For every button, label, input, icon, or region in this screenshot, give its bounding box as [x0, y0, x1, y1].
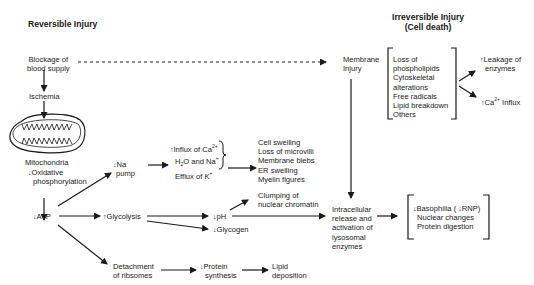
node-detachment-line2: of ribsomes	[113, 271, 154, 280]
node-detachment-ribosomes: Detachment of ribsomes	[113, 262, 154, 280]
node-intracellular-line3: activation of	[332, 223, 373, 232]
bracket-right-membrane-list	[451, 48, 456, 119]
list-item: Loss of	[393, 55, 448, 64]
brace-influx	[219, 141, 226, 169]
node-intracellular-line5: enzymes	[332, 242, 373, 251]
node-membrane-line1: Membrane	[343, 55, 379, 64]
list-membrane-damage-mechanisms: Loss of phospholipids Cytoskeletal alter…	[393, 55, 448, 119]
list-item: Membrane blebs	[258, 156, 315, 165]
node-atp: ↓ATP	[33, 212, 51, 221]
node-oxidative-line1: ↓Oxidative	[28, 168, 87, 177]
arrow-atp-to-detachment	[58, 225, 107, 264]
node-leakage-line2: enzymes	[480, 64, 521, 73]
arrow-list-to-leakage	[459, 71, 475, 81]
arrow-list-to-ca-influx	[459, 86, 476, 97]
node-protein-line1: ↓Protein	[200, 262, 237, 271]
node-blockage-line2: blood supply	[27, 64, 70, 73]
node-intracellular-lysosomal-release: Intracellular release and activation of …	[332, 205, 373, 251]
list-item: Free radicals	[393, 92, 448, 101]
node-na-pump: ↓Na pump	[113, 160, 135, 178]
node-clumping-chromatin: Clumping of nuclear chromatin	[258, 191, 318, 209]
list-item: Cell swelling	[258, 138, 315, 147]
node-clumping-line2: nuclear chromatin	[258, 200, 318, 209]
arrow-glycolysis-to-glycogen	[147, 221, 208, 229]
node-lipid-deposition: Lipid deposition	[272, 262, 307, 280]
list-item: alterations	[393, 83, 448, 92]
node-influx-line1: ↑Influx of Ca2+	[170, 142, 219, 154]
heading-irreversible-injury: Irreversible Injury (Cell death)	[392, 12, 464, 32]
list-item: ER swelling	[258, 166, 315, 175]
node-protein-synthesis: ↓Protein synthesis	[200, 262, 237, 280]
list-item: Lipid breakdown	[393, 101, 448, 110]
node-na-pump-line2: pump	[113, 169, 135, 178]
list-item: Protein digestion	[413, 222, 480, 231]
list-cell-swelling-effects: Cell swelling Loss of microvilli Membran…	[258, 138, 315, 184]
node-protein-line2: synthesis	[200, 271, 237, 280]
node-intracellular-line4: lysosomal	[332, 233, 373, 242]
node-leakage-line1: ↑Leakage of	[480, 55, 521, 64]
node-intracellular-line1: Intracellular	[332, 205, 373, 214]
list-item: Myelin figures	[258, 175, 315, 184]
node-lipid-line1: Lipid	[272, 262, 307, 271]
list-item: Cytoskeletal	[393, 73, 448, 82]
list-item: Others	[393, 110, 448, 119]
list-item: phospholipids	[393, 64, 448, 73]
node-na-pump-line1: ↓Na	[113, 160, 135, 169]
heading-irreversible-line1: Irreversible Injury	[392, 12, 464, 22]
node-ion-influx: ↑Influx of Ca2+ H2O and Na+ Efflux of K+	[170, 142, 219, 181]
bracket-right-lysosomal-list	[483, 195, 489, 239]
heading-irreversible-line2: (Cell death)	[392, 22, 464, 32]
mitochondrion-icon	[10, 114, 85, 153]
node-membrane-injury: Membrane Injury	[343, 55, 379, 73]
node-blockage-line1: Blockage of	[27, 55, 70, 64]
node-clumping-line1: Clumping of	[258, 191, 318, 200]
node-glycolysis: ↑Glycolysis	[103, 212, 141, 221]
node-membrane-line2: Injury	[343, 64, 379, 73]
node-oxidative-phosphorylation: ↓Oxidative phosphorylation	[28, 168, 87, 186]
node-influx-line3: Efflux of K+	[170, 169, 219, 181]
list-item: Nuclear changes	[413, 213, 480, 222]
node-influx-line2: H2O and Na+	[170, 154, 219, 169]
list-item: Loss of microvilli	[258, 147, 315, 156]
node-lipid-line2: deposition	[272, 271, 307, 280]
node-oxidative-line2: phosphorylation	[28, 177, 87, 186]
list-lysosomal-effects: ↓Basophilia ( ↓RNP) Nuclear changes Prot…	[413, 204, 480, 232]
arrow-ph-to-clumping	[230, 200, 248, 210]
node-glycogen: ↓Glycogen	[213, 225, 249, 234]
node-ph: ↓pH	[213, 212, 226, 221]
node-leakage-enzymes: ↑Leakage of enzymes	[480, 55, 521, 73]
node-ca-influx: ↑Ca2+ Influx	[481, 95, 520, 107]
list-item: ↓Basophilia ( ↓RNP)	[413, 204, 480, 213]
node-blockage: Blockage of blood supply	[27, 55, 70, 73]
node-ischemia: Ischemia	[29, 92, 59, 101]
node-intracellular-line2: release and	[332, 214, 373, 223]
node-mitochondria: Mitochondria	[25, 158, 68, 167]
node-detachment-line1: Detachment	[113, 262, 154, 271]
heading-reversible-injury: Reversible Injury	[28, 19, 97, 29]
